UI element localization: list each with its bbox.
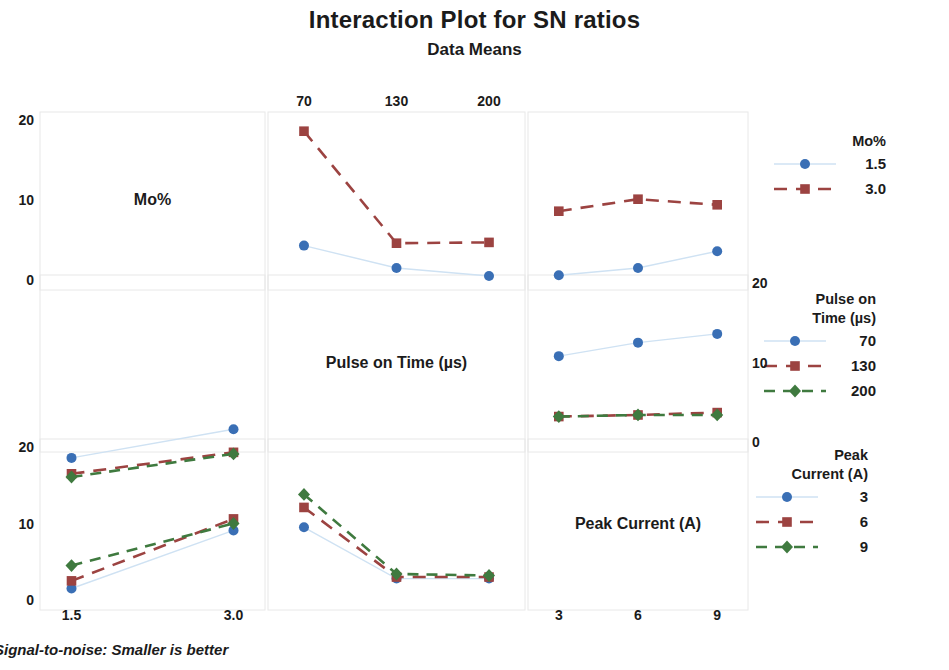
- series-line: [72, 454, 234, 477]
- legend-entry[interactable]: 70: [760, 328, 876, 353]
- legend-marker-square: [782, 517, 792, 527]
- legend-key-wrap: [760, 380, 830, 402]
- legend-entry-label: 200: [830, 382, 876, 399]
- data-point-marker: [299, 503, 309, 513]
- legend-entry-label: 130: [830, 357, 876, 374]
- legend-marker-circle: [800, 159, 810, 169]
- y-tick-row2-right: 10: [752, 355, 780, 371]
- data-point-marker: [554, 270, 564, 280]
- legend-key-wrap: [770, 178, 840, 200]
- legend-entry-label: 6: [822, 513, 868, 530]
- data-point-marker: [67, 576, 77, 586]
- data-point-marker: [633, 194, 643, 204]
- data-point-marker: [229, 424, 239, 434]
- x-tick-bottom-col1: 3.0: [224, 607, 243, 623]
- legend-mo-percent: Mo%1.53.0: [770, 132, 886, 201]
- data-point-marker: [712, 200, 722, 210]
- legend-entry-label: 9: [822, 538, 868, 555]
- legend-marker-diamond: [781, 540, 793, 553]
- y-tick-row3: 10: [6, 516, 34, 532]
- data-point-marker: [299, 126, 309, 136]
- data-point-marker: [299, 241, 309, 251]
- legend-entry[interactable]: 3.0: [770, 176, 886, 201]
- data-point-marker: [67, 453, 77, 463]
- footnote: Signal-to-noise: Smaller is better: [0, 641, 228, 658]
- legend-key-wrap: [760, 330, 830, 352]
- y-tick-row1: 20: [6, 112, 34, 128]
- legend-key-wrap: [752, 536, 822, 558]
- legend-entry-label: 3: [822, 488, 868, 505]
- legend-entry-label: 70: [830, 332, 876, 349]
- y-tick-row3: 0: [6, 592, 34, 608]
- legend-title-line: Current (A): [752, 465, 868, 484]
- legend-entry[interactable]: 3: [752, 484, 868, 509]
- factor-label-pulse-on-time: Pulse on Time (µs): [326, 354, 467, 372]
- x-tick-bottom-col1: 1.5: [62, 607, 81, 623]
- legend-key: [752, 486, 822, 508]
- data-point-marker: [633, 263, 643, 273]
- legend-key: [770, 153, 840, 175]
- y-tick-row2-right: 20: [752, 275, 780, 291]
- x-tick-top-col2: 200: [477, 93, 500, 109]
- series-line: [72, 452, 234, 473]
- legend-key: [752, 536, 822, 558]
- legend-entry[interactable]: 200: [760, 378, 876, 403]
- legend-peak-current: PeakCurrent (A)369: [752, 446, 868, 559]
- data-point-marker: [712, 329, 722, 339]
- x-tick-top-col2: 70: [296, 93, 312, 109]
- data-point-marker: [299, 522, 309, 532]
- legend-entry-label: 1.5: [840, 155, 886, 172]
- data-point-marker: [66, 559, 78, 572]
- legend-key-wrap: [770, 153, 840, 175]
- legend-entry[interactable]: 1.5: [770, 151, 886, 176]
- data-point-marker: [484, 271, 494, 281]
- legend-entry-label: 3.0: [840, 180, 886, 197]
- legend-entry[interactable]: 6: [752, 509, 868, 534]
- legend-title-line: Mo%: [770, 132, 886, 151]
- data-point-marker: [392, 263, 402, 273]
- legend-key-wrap: [752, 486, 822, 508]
- legend-key: [760, 380, 830, 402]
- legend-pulse-on-time: Pulse onTime (µs)70130200: [760, 290, 876, 403]
- legend-key: [752, 511, 822, 533]
- legend-key: [760, 330, 830, 352]
- series-line: [72, 429, 234, 458]
- y-tick-row1: 10: [6, 192, 34, 208]
- data-point-marker: [712, 246, 722, 256]
- legend-marker-circle: [790, 336, 800, 346]
- x-tick-bottom-col3: 9: [713, 607, 721, 623]
- series-line: [72, 519, 234, 581]
- data-point-marker: [554, 206, 564, 216]
- x-tick-top-col2: 130: [385, 93, 408, 109]
- legend-key-wrap: [752, 511, 822, 533]
- legend-marker-square: [800, 184, 810, 194]
- legend-marker-diamond: [789, 384, 801, 397]
- data-point-marker: [392, 238, 402, 248]
- legend-title-line: Time (µs): [760, 309, 876, 328]
- legend-entry[interactable]: 9: [752, 534, 868, 559]
- legend-marker-circle: [782, 492, 792, 502]
- data-point-marker: [633, 338, 643, 348]
- legend-key: [770, 178, 840, 200]
- series-line: [304, 494, 489, 575]
- series-line: [304, 131, 489, 243]
- y-tick-row3: 20: [6, 439, 34, 455]
- x-tick-bottom-col3: 3: [555, 607, 563, 623]
- x-tick-bottom-col3: 6: [634, 607, 642, 623]
- factor-label-peak-current: Peak Current (A): [575, 515, 701, 533]
- y-tick-row2-right: 0: [752, 434, 780, 450]
- y-tick-row1: 0: [6, 272, 34, 288]
- factor-label-mo-percent: Mo%: [134, 191, 171, 209]
- data-point-marker: [554, 351, 564, 361]
- data-point-marker: [484, 238, 494, 248]
- panel-frame: [528, 275, 748, 452]
- legend-marker-square: [790, 361, 800, 371]
- legend-title-line: Pulse on: [760, 290, 876, 309]
- interaction-plot-page: Interaction Plot for SN ratios Data Mean…: [0, 0, 949, 670]
